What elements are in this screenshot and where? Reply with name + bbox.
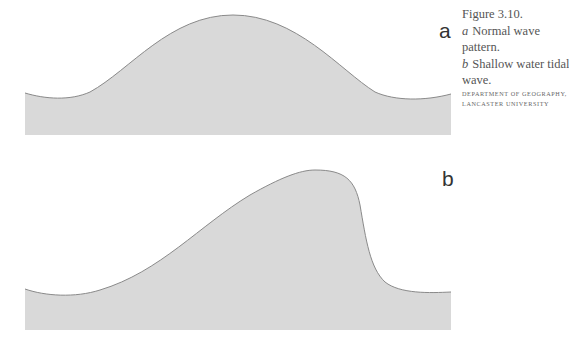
- caption-a-letter: a: [462, 24, 468, 38]
- figure-number: Figure 3.10.: [462, 6, 562, 23]
- wave-b-tidal: [25, 170, 451, 330]
- caption-b-text-1: Shallow water tidal: [472, 57, 569, 71]
- credit-line-2: Lancaster University: [462, 99, 562, 109]
- panel-label-b: b: [442, 168, 454, 189]
- panel-label-a: a: [439, 20, 451, 41]
- caption-b: bShallow water tidal: [462, 56, 562, 73]
- caption-a-text-1: Normal wave: [472, 24, 540, 38]
- caption-a: aNormal wave: [462, 23, 562, 40]
- caption-b-letter: b: [462, 57, 468, 71]
- credit-line-1: Department of Geography,: [462, 89, 562, 99]
- caption-b-text-2: wave.: [462, 72, 562, 89]
- wave-a-normal: [25, 15, 451, 135]
- figure-caption: Figure 3.10. aNormal wave pattern. bShal…: [462, 6, 562, 109]
- caption-a-text-2: pattern.: [462, 39, 562, 56]
